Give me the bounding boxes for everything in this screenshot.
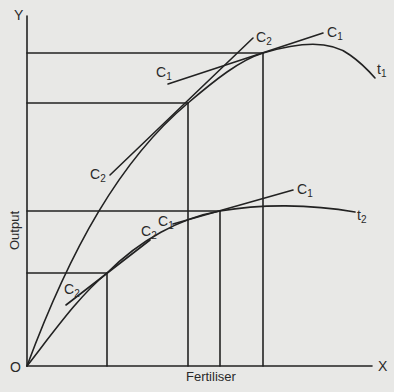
x-axis-label: X [378, 359, 387, 373]
curve-label-t1: t1 [377, 62, 386, 79]
tangent-c2-t1 [110, 38, 253, 175]
label-c2-t1-top: C2 [256, 30, 272, 47]
production-function-diagram: Y X O Output Fertiliser t1 t2 C1 C1 C2 C… [0, 0, 394, 392]
label-c2-t1-bottom: C2 [90, 167, 106, 184]
curve-t1 [27, 44, 375, 366]
x-axis-title: Fertiliser [186, 370, 236, 383]
origin-label: O [10, 360, 21, 374]
tangent-c1-t1 [168, 33, 323, 84]
curve-label-t2: t2 [357, 208, 366, 225]
label-c1-t2-right: C1 [297, 182, 313, 199]
label-c2-t2-low: C2 [64, 282, 80, 299]
label-c1-t2-left: C1 [158, 214, 174, 231]
y-axis-title: Output [8, 211, 21, 250]
tangent-c1-t2 [173, 190, 293, 224]
y-axis-label: Y [14, 8, 23, 22]
label-c1-t1-right: C1 [327, 25, 343, 42]
diagram-lines [0, 0, 394, 392]
label-c2-t2-mid: C2 [141, 224, 157, 241]
label-c1-t1-left: C1 [156, 65, 172, 82]
